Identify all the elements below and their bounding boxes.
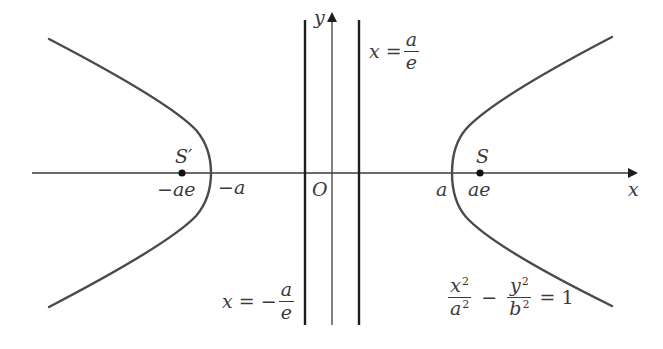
left-directrix-denominator: e xyxy=(279,303,294,323)
term2-numerator-exponent: 2 xyxy=(522,275,529,288)
term2-denominator-exponent: 2 xyxy=(522,298,529,311)
equation-term2-fraction: y2 b2 xyxy=(507,276,531,319)
vertex-right-label: a xyxy=(436,180,447,199)
equation-term1-fraction: x2 a2 xyxy=(448,276,471,319)
focus-right-point xyxy=(476,169,483,176)
term2-numerator: y xyxy=(510,274,521,296)
term1-numerator-exponent: 2 xyxy=(462,275,469,288)
focus-left-label: S′ xyxy=(175,147,192,166)
left-directrix-lhs: x = − xyxy=(222,292,277,311)
hyperbola-right-branch xyxy=(452,37,612,306)
right-directrix-numerator: a xyxy=(404,30,419,50)
equation-minus: − xyxy=(481,288,497,307)
right-directrix-lhs: x = xyxy=(369,42,402,61)
y-axis-label: y xyxy=(314,8,325,27)
focus-left-coord-label: −ae xyxy=(157,180,196,199)
term1-numerator: x xyxy=(450,274,461,296)
hyperbola-equation: x2 a2 − y2 b2 = 1 xyxy=(446,276,573,319)
x-axis-label: x xyxy=(628,180,639,199)
right-directrix-denominator: e xyxy=(404,53,419,73)
right-directrix-fraction: a e xyxy=(404,30,419,73)
left-directrix-fraction: a e xyxy=(279,280,294,323)
focus-left-point xyxy=(178,169,185,176)
focus-right-coord-label: ae xyxy=(468,180,491,199)
hyperbola-diagram: y x O S′ S −ae ae −a a x = a e x = − a e… xyxy=(0,0,663,349)
equation-rhs: = 1 xyxy=(539,288,573,307)
left-directrix-equation: x = − a e xyxy=(222,280,296,323)
right-directrix-equation: x = a e xyxy=(369,30,421,73)
origin-label: O xyxy=(312,180,328,199)
left-directrix-numerator: a xyxy=(279,280,294,300)
term1-denominator-exponent: 2 xyxy=(462,298,469,311)
focus-right-label: S xyxy=(476,147,489,166)
term1-denominator: a xyxy=(450,297,461,319)
vertex-left-label: −a xyxy=(218,178,245,197)
term2-denominator: b xyxy=(509,297,521,319)
